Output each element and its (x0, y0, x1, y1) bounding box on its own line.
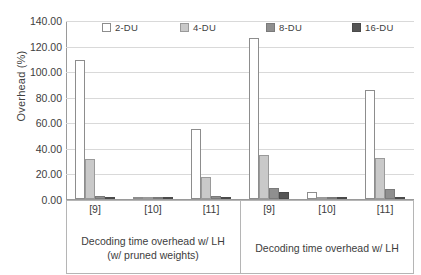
bar (375, 158, 385, 199)
category-tick-label: [10] (318, 203, 336, 215)
bar (259, 155, 269, 199)
category-tick-label: [9] (263, 203, 275, 215)
legend-label: 8-DU (279, 22, 302, 33)
gridline (66, 174, 414, 175)
gridline (66, 149, 414, 150)
group-label-line-2: (w/ pruned weights) (107, 248, 199, 262)
plot-area (66, 21, 414, 200)
bar (385, 189, 395, 199)
bar (221, 197, 231, 199)
bar (337, 197, 347, 199)
bar (105, 197, 115, 199)
y-axis-tick-label: 60.00 (6, 117, 62, 129)
bar (85, 159, 95, 199)
chart-legend: 2-DU4-DU8-DU16-DU (66, 22, 414, 36)
bar (249, 38, 259, 199)
y-axis-tick-label: 120.00 (6, 41, 62, 53)
category-tick-label: [11] (377, 203, 394, 215)
bar (307, 192, 317, 199)
bar (317, 197, 327, 199)
bar (279, 192, 289, 199)
y-axis-tick-label: 140.00 (6, 15, 62, 27)
gridline (66, 98, 414, 99)
gridline (66, 72, 414, 73)
y-axis-tick-label: 40.00 (6, 143, 62, 155)
y-axis-line (66, 21, 67, 200)
bar (95, 196, 105, 199)
bar (75, 60, 85, 199)
legend-swatch-icon (266, 23, 275, 32)
y-axis-tick-label: 100.00 (6, 66, 62, 78)
legend-swatch-icon (352, 23, 361, 32)
bar (143, 197, 153, 199)
legend-item-8-du[interactable]: 8-DU (266, 22, 302, 33)
group-label-line-1: Decoding time overhead w/ LH (81, 234, 225, 248)
bar (153, 197, 163, 199)
legend-label: 2-DU (115, 22, 138, 33)
legend-label: 16-DU (365, 22, 393, 33)
group-label: Decoding time overhead w/ LH(w/ pruned w… (66, 222, 240, 274)
legend-label: 4-DU (193, 22, 216, 33)
bar (395, 197, 405, 199)
gridline (66, 47, 414, 48)
group-label: Decoding time overhead w/ LH (240, 222, 414, 274)
bar (327, 197, 337, 199)
group-separator (240, 200, 241, 274)
bar (211, 196, 221, 199)
legend-swatch-icon (102, 23, 111, 32)
y-axis-tick-labels: 0.0020.0040.0060.0080.00100.00120.00140.… (6, 0, 62, 275)
y-axis-tick-label: 0.00 (6, 194, 62, 206)
bar (163, 197, 173, 199)
category-tick-label: [9] (89, 203, 101, 215)
group-label-line-1: Decoding time overhead w/ LH (255, 241, 399, 255)
bar (133, 197, 143, 199)
gridline (66, 123, 414, 124)
bar (365, 90, 375, 199)
category-axis-area: [9][10][11][9][10][11] Decoding time ove… (66, 200, 414, 274)
legend-item-4-du[interactable]: 4-DU (180, 22, 216, 33)
legend-item-16-du[interactable]: 16-DU (352, 22, 393, 33)
bar-chart: Overhead (%) 0.0020.0040.0060.0080.00100… (0, 0, 421, 275)
y-axis-tick-label: 80.00 (6, 92, 62, 104)
category-tick-label: [11] (203, 203, 220, 215)
legend-item-2-du[interactable]: 2-DU (102, 22, 138, 33)
category-tick-label: [10] (144, 203, 162, 215)
y-axis-tick-label: 20.00 (6, 168, 62, 180)
bar (191, 129, 201, 199)
bar (269, 188, 279, 199)
bar (201, 177, 211, 199)
legend-swatch-icon (180, 23, 189, 32)
